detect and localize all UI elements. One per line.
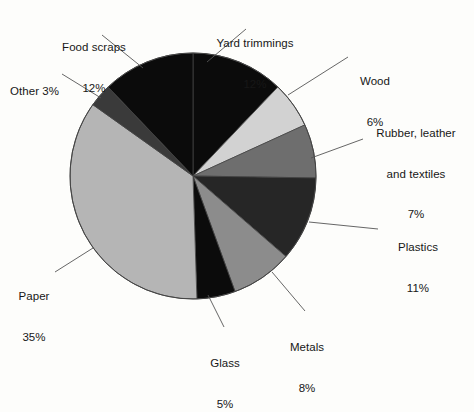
slice-label-glass-percent: 5% bbox=[196, 398, 254, 412]
slice-label-plastics: Plastics 11% bbox=[382, 214, 454, 322]
slice-label-metals-name: Metals bbox=[276, 341, 338, 355]
slice-label-glass: Glass 5% bbox=[196, 330, 254, 412]
slice-label-yard-trimmings-percent: 12% bbox=[190, 78, 320, 92]
slice-label-food-scraps-name: Food scraps bbox=[42, 41, 146, 55]
slice-label-plastics-name: Plastics bbox=[382, 241, 454, 255]
slice-label-plastics-percent: 11% bbox=[382, 282, 454, 296]
slice-label-food-scraps-percent: 12% bbox=[42, 82, 146, 96]
leader-line-metals bbox=[272, 272, 305, 311]
slice-label-paper: Paper 35% bbox=[5, 263, 63, 371]
slice-label-yard-trimmings: Yard trimmings 12% bbox=[190, 10, 320, 118]
slice-label-wood-name: Wood bbox=[340, 75, 410, 89]
slice-label-metals-percent: 8% bbox=[276, 382, 338, 396]
slice-label-paper-percent: 35% bbox=[5, 331, 63, 345]
slice-label-rubber-line2: and textiles bbox=[358, 168, 474, 182]
slice-label-paper-name: Paper bbox=[5, 290, 63, 304]
slice-label-food-scraps: Food scraps 12% bbox=[42, 14, 146, 122]
slice-label-metals: Metals 8% bbox=[276, 314, 338, 412]
leader-line-glass bbox=[208, 295, 224, 327]
slice-label-glass-name: Glass bbox=[196, 357, 254, 371]
slice-label-yard-trimmings-name: Yard trimmings bbox=[190, 37, 320, 51]
slice-label-rubber-line1: Rubber, leather bbox=[358, 127, 474, 141]
